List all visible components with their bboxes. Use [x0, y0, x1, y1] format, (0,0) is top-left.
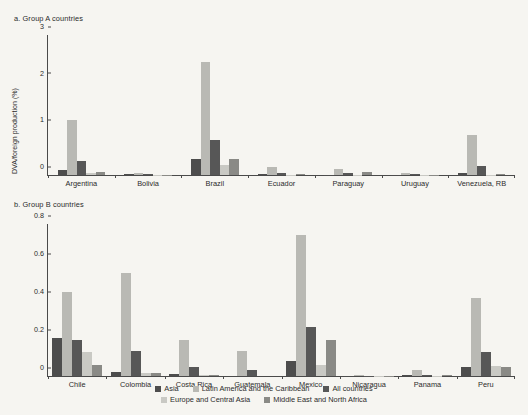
bar [210, 140, 220, 175]
bar [237, 351, 247, 376]
bar [501, 367, 511, 377]
x-tick-label: Ecuador [248, 175, 315, 188]
bar [316, 365, 326, 376]
panel-a-y-axis-label: DVA/foreign production (%) [11, 88, 18, 174]
bar [179, 340, 189, 376]
panel-b-axis-end-tick [514, 376, 515, 379]
panel-a-label: a. Group A countries [14, 14, 83, 23]
x-tick-label: Paraguay [315, 175, 382, 188]
bar [67, 120, 77, 175]
y-tick-label: 0 [40, 363, 48, 372]
figure-container: a. Group A countries DVA/foreign product… [0, 0, 528, 415]
bar [77, 161, 87, 175]
bar [72, 340, 82, 376]
panel-b-bars [48, 224, 515, 376]
bar [306, 327, 316, 376]
y-tick-label: 3 [40, 22, 48, 31]
x-tick-label: Bolivia [115, 175, 182, 188]
bar [220, 165, 230, 175]
bar [229, 159, 239, 175]
bar [62, 292, 72, 376]
bar [477, 166, 487, 175]
chart-legend: AsiaLatin America and the CaribbeanAll c… [0, 384, 528, 404]
panel-group-a: a. Group A countries DVA/foreign product… [0, 14, 528, 198]
bar [92, 365, 102, 376]
legend-label: Middle East and North Africa [273, 395, 367, 404]
x-tick-label: Uruguay [382, 175, 449, 188]
y-tick-label: 1 [40, 115, 48, 124]
bar-cluster [223, 224, 281, 376]
bar [491, 366, 501, 376]
y-tick-label: 0.6 [34, 249, 48, 258]
bar-cluster [340, 224, 398, 376]
legend-swatch-icon [264, 397, 270, 403]
bar-cluster [457, 224, 515, 376]
bar [467, 135, 477, 175]
panel-b-plot-area: 00.20.40.60.8 ChileColombiaCosta RicaGua… [47, 224, 515, 377]
bar-cluster [115, 35, 182, 175]
legend-swatch-icon [193, 386, 199, 392]
bar-cluster [282, 224, 340, 376]
bar-cluster [448, 35, 515, 175]
legend-swatch-icon [161, 397, 167, 403]
legend-label: Asia [164, 384, 178, 393]
bar-cluster [398, 224, 456, 376]
bar [52, 338, 62, 376]
bar [326, 340, 336, 376]
legend-row: AsiaLatin America and the CaribbeanAll c… [155, 384, 372, 393]
y-tick-label: 2 [40, 68, 48, 77]
panel-a-plot-area: 0123 ArgentinaBoliviaBrazilEcuadorParagu… [47, 35, 515, 176]
bar-cluster [382, 35, 449, 175]
bar [189, 367, 199, 377]
legend-swatch-icon [155, 386, 161, 392]
y-tick-label: 0.8 [34, 211, 48, 220]
bar-cluster [106, 224, 164, 376]
bar [481, 352, 491, 376]
legend-row: Europe and Central AsiaMiddle East and N… [161, 395, 367, 404]
panel-a-x-ticks: ArgentinaBoliviaBrazilEcuadorParaguayUru… [48, 175, 515, 188]
x-tick-label: Argentina [48, 175, 115, 188]
bar [121, 273, 131, 376]
legend-item: All countries [323, 384, 372, 393]
bar [286, 361, 296, 376]
legend-label: Latin America and the Caribbean [202, 384, 310, 393]
figure-title [180, 0, 528, 6]
legend-item: Asia [155, 384, 178, 393]
bar [201, 62, 211, 175]
legend-label: Europe and Central Asia [170, 395, 250, 404]
legend-item: Latin America and the Caribbean [193, 384, 310, 393]
bar [296, 235, 306, 376]
legend-swatch-icon [323, 386, 329, 392]
bar [267, 167, 277, 175]
bar-cluster [181, 35, 248, 175]
bar-cluster [165, 224, 223, 376]
bar [131, 351, 141, 376]
bar-cluster [315, 35, 382, 175]
bar-cluster [248, 35, 315, 175]
y-tick-label: 0.2 [34, 325, 48, 334]
panel-group-b: b. Group B countries DVA/foreign product… [0, 200, 528, 380]
panel-a-bars [48, 35, 515, 175]
legend-item: Europe and Central Asia [161, 395, 250, 404]
bar [461, 367, 471, 377]
panel-b-label: b. Group B countries [14, 200, 84, 209]
x-tick-label: Brazil [181, 175, 248, 188]
bar [191, 159, 201, 175]
bar [82, 352, 92, 376]
bar [471, 298, 481, 376]
panel-a-axis-end-tick [514, 175, 515, 178]
legend-item: Middle East and North Africa [264, 395, 367, 404]
y-tick-label: 0.4 [34, 287, 48, 296]
bar-cluster [48, 35, 115, 175]
bar-cluster [48, 224, 106, 376]
x-tick-label: Venezuela, RB [448, 175, 515, 188]
legend-label: All countries [332, 384, 372, 393]
y-tick-label: 0 [40, 162, 48, 171]
